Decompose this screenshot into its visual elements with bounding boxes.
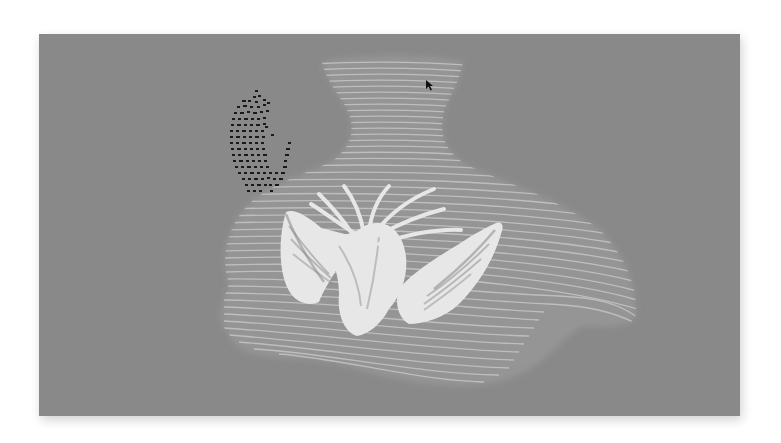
image-stage: Gray-toned image of a translucent layere…: [0, 0, 781, 443]
scene-canvas: [39, 34, 740, 416]
image-panel: [39, 34, 740, 416]
